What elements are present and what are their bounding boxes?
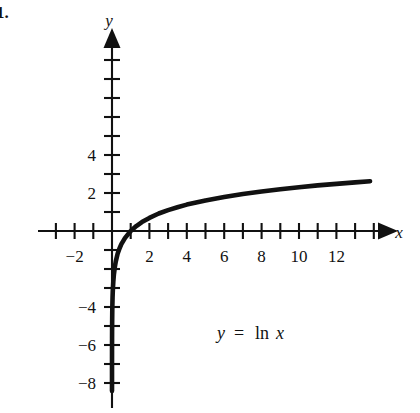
graph-svg: −2 2 4 6 8 10 12 4 2 −4 −6 −8 x y y = ln… [0, 0, 420, 413]
equation-lhs: y [215, 323, 225, 343]
figure-container: 1. [0, 0, 420, 413]
y-tick-label--8: −8 [78, 374, 96, 393]
x-tick-label--2: −2 [66, 247, 84, 266]
y-tick-label--6: −6 [78, 336, 96, 355]
equation-argument: x [275, 323, 284, 343]
x-tick-label-10: 10 [291, 247, 308, 266]
ln-curve [112, 181, 370, 391]
y-tick-label-4: 4 [88, 146, 97, 165]
y-axis-arrowhead [104, 28, 121, 48]
x-tick-label-6: 6 [220, 247, 229, 266]
y-tick-labels: 4 2 −4 −6 −8 [78, 146, 97, 393]
equation-annotation: y = ln x [215, 323, 284, 343]
equation-operator: = [234, 323, 244, 343]
equation-function-name: ln [255, 323, 269, 343]
y-tick-label-2: 2 [88, 184, 97, 203]
x-tick-label-8: 8 [257, 247, 266, 266]
x-tick-label-4: 4 [183, 247, 192, 266]
x-tick-label-12: 12 [328, 247, 345, 266]
x-tick-label-2: 2 [145, 247, 154, 266]
y-axis-label: y [103, 11, 113, 30]
curve-group [112, 181, 370, 391]
x-axis-label: x [394, 223, 403, 242]
problem-number-label: 1. [0, 4, 9, 21]
y-tick-label--4: −4 [78, 298, 97, 317]
